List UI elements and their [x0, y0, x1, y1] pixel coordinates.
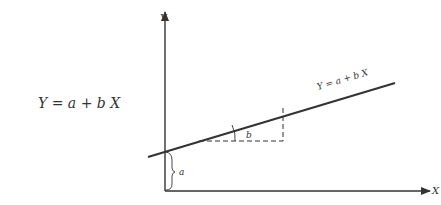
y-axis-label: Y [160, 12, 168, 23]
x-axis-label: X [431, 185, 440, 196]
linear-regression-diagram: Y X Y = a + b X b a [0, 0, 441, 205]
slope-angle-arc [232, 125, 235, 141]
line-label: Y = a + b X [316, 67, 370, 92]
intercept-label: a [179, 167, 184, 177]
slope-label: b [246, 130, 252, 140]
regression-line [148, 83, 395, 157]
intercept-brace [166, 152, 175, 190]
